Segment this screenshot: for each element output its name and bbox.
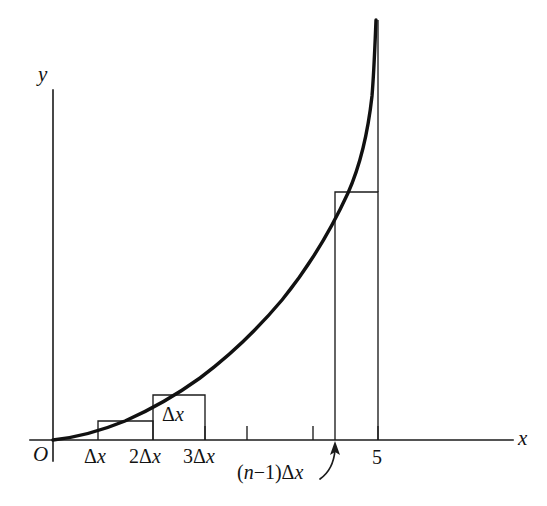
x-tick-label-delta-x: Δx — [84, 446, 106, 466]
origin-label: O — [33, 444, 48, 465]
x-tick-label-three-delta-x: 3Δx — [183, 446, 215, 466]
pointer-arrow-shaft — [320, 450, 335, 479]
x-axis-label: x — [518, 428, 527, 449]
rectangle-n — [335, 192, 378, 440]
x-tick-label-upper-limit: 5 — [372, 447, 382, 467]
x-tick-label-n-minus-one-delta-x: (n−1)Δx — [237, 462, 303, 482]
function-curve — [53, 20, 376, 440]
rectangle-width-annotation: Δx — [162, 404, 184, 424]
x-tick-label-two-delta-x: 2Δx — [129, 446, 161, 466]
figure-drawing — [0, 0, 547, 506]
y-axis-label: y — [38, 64, 47, 85]
rectangle-1 — [98, 421, 153, 440]
figure-canvas: y x O Δx 2Δx 3Δx Δx (n−1)Δx 5 — [0, 0, 547, 506]
